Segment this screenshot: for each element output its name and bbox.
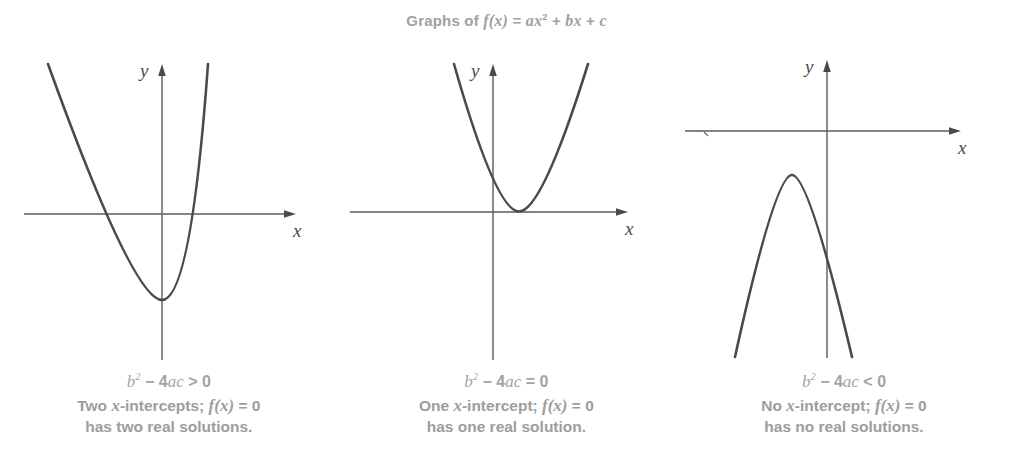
x-axis-label: x: [624, 218, 634, 239]
figure-title-coefficient-a: a: [526, 12, 534, 29]
caption-one-root: b2 − 4ac = 0 One x-intercept; f(x) = 0 h…: [338, 372, 676, 438]
x-axis-arrowhead: [284, 210, 296, 218]
figure-title: Graphs of f(x) = ax2 + bx + c: [0, 12, 1013, 30]
caption-equals-zero: = 0: [900, 397, 926, 414]
figure-title-variable-x: x: [534, 12, 542, 29]
discriminant-relation: = 0: [521, 373, 548, 390]
caption-intercepts-word: -intercept;: [462, 397, 542, 414]
y-axis-label: y: [469, 60, 480, 81]
x-axis-arrowhead: [616, 208, 628, 216]
x-axis-label: x: [292, 220, 302, 241]
caption-intercept-count: Two: [77, 397, 111, 414]
discriminant-ac: ac: [843, 372, 859, 391]
discriminant-minus-four: − 4: [141, 373, 168, 390]
figure-title-prefix: Graphs of: [406, 12, 483, 29]
caption-equals-zero: = 0: [234, 397, 260, 414]
figure-title-function: f(x): [483, 12, 508, 29]
y-axis-label: y: [138, 60, 149, 81]
caption-function: f(x): [542, 396, 567, 415]
y-axis-label: y: [803, 56, 814, 77]
y-axis-arrowhead: [158, 64, 166, 76]
discriminant-b: b: [464, 372, 473, 391]
y-axis-arrowhead: [823, 60, 831, 72]
figure-title-plus-2: +: [582, 12, 600, 29]
caption-intercept-count: One: [419, 397, 453, 414]
caption-line-1: No x-intercept; f(x) = 0: [675, 395, 1013, 417]
caption-intercepts-word: -intercepts;: [120, 397, 209, 414]
caption-intercepts-word: -intercept;: [795, 397, 875, 414]
caption-function: f(x): [875, 396, 900, 415]
panels-row: x y b2 − 4ac > 0 Two x-intercepts; f(x) …: [0, 50, 1013, 460]
figure-title-equals: =: [508, 12, 526, 29]
caption-line-1: Two x-intercepts; f(x) = 0: [0, 395, 338, 417]
caption-two-roots: b2 − 4ac > 0 Two x-intercepts; f(x) = 0 …: [0, 372, 338, 438]
discriminant-minus-four: − 4: [478, 373, 505, 390]
discriminant-minus-four: − 4: [816, 373, 843, 390]
caption-line-2: has no real solutions.: [675, 417, 1013, 437]
figure-title-variable-x2: x: [573, 12, 581, 29]
parabola-curve-no-roots: [735, 175, 852, 357]
plot-two-roots: x y: [0, 50, 338, 370]
caption-variable-x: x: [786, 396, 795, 415]
caption-intercept-count: No: [761, 397, 786, 414]
plot-svg-two-roots: x y: [0, 50, 338, 370]
figure-title-coefficient-c: c: [599, 12, 606, 29]
x-axis-label: x: [957, 137, 967, 158]
plot-one-root: x y: [338, 50, 676, 370]
caption-no-roots: b2 − 4ac < 0 No x-intercept; f(x) = 0 ha…: [675, 372, 1013, 438]
plot-svg-one-root: x y: [338, 50, 676, 370]
plot-svg-no-roots: x y: [675, 50, 1013, 370]
discriminant-relation: < 0: [859, 373, 886, 390]
caption-line-1: One x-intercept; f(x) = 0: [338, 395, 676, 417]
figure-title-plus-1: +: [548, 12, 566, 29]
x-axis-tick-mark: [704, 132, 708, 136]
caption-variable-x: x: [453, 396, 462, 415]
discriminant-relation: > 0: [184, 373, 211, 390]
panel-one-root: x y b2 − 4ac = 0 One x-intercept; f(x) =…: [338, 50, 676, 460]
y-axis-arrowhead: [489, 64, 497, 76]
discriminant-ac: ac: [505, 372, 521, 391]
caption-function: f(x): [209, 396, 234, 415]
panel-two-roots: x y b2 − 4ac > 0 Two x-intercepts; f(x) …: [0, 50, 338, 460]
panel-no-roots: x y b2 − 4ac < 0 No x-intercept; f(x) = …: [675, 50, 1013, 460]
discriminant-no-roots: b2 − 4ac < 0: [675, 372, 1013, 392]
discriminant-one-root: b2 − 4ac = 0: [338, 372, 676, 392]
discriminant-b: b: [127, 372, 136, 391]
caption-line-2: has two real solutions.: [0, 417, 338, 437]
plot-no-roots: x y: [675, 50, 1013, 370]
caption-equals-zero: = 0: [568, 397, 594, 414]
x-axis-arrowhead: [949, 127, 961, 135]
figure-container: Graphs of f(x) = ax2 + bx + c x y: [0, 0, 1013, 467]
parabola-curve-one-root: [454, 64, 588, 211]
caption-line-2: has one real solution.: [338, 417, 676, 437]
caption-variable-x: x: [111, 396, 120, 415]
discriminant-ac: ac: [168, 372, 184, 391]
parabola-curve-two-roots: [48, 64, 208, 300]
discriminant-two-roots: b2 − 4ac > 0: [0, 372, 338, 392]
